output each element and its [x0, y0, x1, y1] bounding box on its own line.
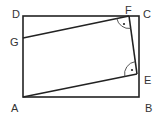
- label-d: D: [12, 8, 20, 20]
- right-angle-dot-e: [131, 69, 133, 71]
- label-e: E: [144, 74, 151, 86]
- label-a: A: [11, 102, 19, 114]
- segment-gf: [23, 16, 129, 38]
- label-f: F: [125, 4, 132, 16]
- label-b: B: [145, 102, 152, 114]
- right-angle-dot-f: [123, 23, 125, 25]
- label-c: C: [143, 8, 151, 20]
- segment-ea: [23, 74, 137, 97]
- label-g: G: [10, 36, 19, 48]
- segment-fe: [129, 16, 137, 74]
- geometry-diagram: D C F G E A B: [0, 0, 162, 119]
